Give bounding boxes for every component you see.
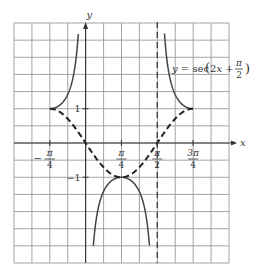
tick-numerator: 3π: [187, 148, 200, 158]
x-axis-label: x: [240, 137, 246, 148]
tick-numerator: π: [46, 148, 54, 158]
chart: xy π4−π4π23π41−1 y = sec(2x +π2): [0, 0, 257, 275]
tick-denominator: 4: [119, 160, 125, 170]
function-label-frac-den: 2: [236, 70, 242, 80]
x-tick-label: 3π4: [187, 148, 200, 170]
x-tick-label: π4: [116, 148, 126, 170]
x-tick-label: π4−: [33, 148, 54, 170]
tick-numerator: π: [153, 148, 161, 158]
y-tick-label: −1: [67, 172, 81, 183]
function-label-close-paren: ): [245, 61, 250, 76]
tick-denominator: 4: [190, 160, 196, 170]
x-tick-label: π2: [152, 148, 162, 170]
y-tick-label: 1: [75, 103, 81, 114]
function-label: y = sec(2x +π2): [171, 58, 250, 80]
secant-curve: [50, 34, 79, 109]
tick-numerator: π: [117, 148, 125, 158]
y-axis-label: y: [86, 9, 93, 20]
function-label-argument: (2x +: [205, 60, 234, 75]
x-axis-arrow-icon: [231, 141, 237, 146]
function-label-frac-num: π: [235, 58, 243, 68]
tick-denominator: 4: [47, 160, 53, 170]
tick-sign: −: [33, 153, 41, 164]
function-label-prefix: y = sec: [171, 63, 209, 74]
tick-denominator: 2: [154, 160, 160, 170]
